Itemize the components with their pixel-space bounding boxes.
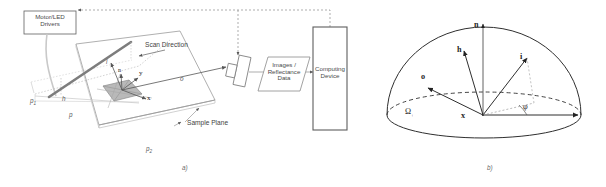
incoming-label-a: i: [106, 59, 107, 66]
caption-b: b): [487, 165, 493, 172]
hemisphere-dome: [387, 27, 581, 115]
outgoing-label-a: o: [180, 76, 184, 83]
half-vector-label-b: h: [457, 46, 462, 55]
normal-label-a: n: [118, 67, 121, 73]
normal-label-b: n: [474, 21, 479, 30]
camera-assembly: [226, 55, 251, 87]
figure-vector-graphics: [0, 0, 606, 187]
y-axis-label-a: y: [139, 70, 143, 77]
motor-cable: [46, 34, 56, 96]
control-bus-line: [83, 10, 330, 27]
panel-b-graphics: [387, 24, 581, 138]
pitch-label-a: p: [69, 112, 73, 119]
hemisphere-base-front: [387, 115, 581, 138]
outgoing-label-b: o: [421, 73, 425, 82]
caption-a: a): [182, 165, 188, 172]
height-label-a: h: [62, 96, 66, 103]
x-axis-label-a: x: [147, 95, 151, 102]
azimuth-angle-label-b: φ: [523, 103, 528, 112]
images-reflectance-data-label: Images / Reflectance Data: [262, 62, 306, 82]
point-1-label-a: p1: [30, 98, 36, 107]
surface-point-label-b: x: [461, 112, 465, 121]
left-tick: [31, 82, 34, 93]
point-2-label-a: p2: [146, 146, 152, 155]
figure-container: Motor/LED Drivers Images / Reflectance D…: [0, 0, 606, 187]
motor-led-drivers-label: Motor/LED Drivers: [26, 14, 74, 27]
sample-plane-label: Sample Plane: [187, 120, 228, 127]
scan-direction-label: Scan Direction: [145, 42, 188, 49]
sample-plane-callout-tip: [174, 122, 181, 126]
incoming-label-b: i: [520, 53, 522, 62]
hemisphere-label-b: Ω+: [405, 108, 414, 118]
computing-device-label: Computing Device: [314, 66, 346, 79]
